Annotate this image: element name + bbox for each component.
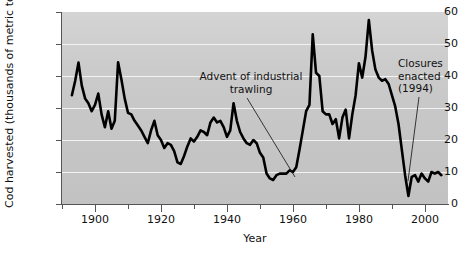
- y-tick-mark-50: [56, 44, 61, 45]
- x-axis-line: [61, 204, 449, 205]
- gridline-y-30: [62, 108, 448, 109]
- y-tick-label-10: 10: [406, 166, 458, 177]
- x-tick-label-1960: 1960: [268, 214, 318, 226]
- y-tick-label-0: 0: [406, 198, 458, 209]
- x-tick-mark-1950: [260, 205, 261, 209]
- annotation-closures-enacted: Closures enacted (1994): [398, 57, 456, 95]
- x-tick-label-1980: 1980: [334, 214, 384, 226]
- x-tick-label-1940: 1940: [202, 214, 252, 226]
- gridline-y-20: [62, 140, 448, 141]
- x-tick-mark-1940: [227, 205, 228, 212]
- x-tick-label-1900: 1900: [70, 214, 120, 226]
- y-axis-line: [61, 12, 62, 205]
- x-tick-mark-1980: [359, 205, 360, 212]
- x-tick-label-1920: 1920: [136, 214, 186, 226]
- cod-harvest-chart: Cod harvested (thousands of metric tonne…: [0, 0, 458, 254]
- plot-area: [62, 12, 448, 204]
- y-tick-label-30: 30: [406, 102, 458, 113]
- x-tick-mark-1890: [62, 205, 63, 209]
- y-tick-mark-20: [56, 140, 61, 141]
- y-axis-label: Cod harvested (thousands of metric tonne…: [2, 2, 18, 208]
- x-tick-mark-1970: [326, 205, 327, 209]
- gridline-y-50: [62, 44, 448, 45]
- y-tick-mark-30: [56, 108, 61, 109]
- x-tick-mark-1900: [95, 205, 96, 212]
- gridline-y-10: [62, 172, 448, 173]
- x-tick-mark-1920: [161, 205, 162, 212]
- y-tick-mark-0: [56, 204, 61, 205]
- y-tick-label-60: 60: [406, 6, 458, 17]
- x-tick-mark-2000: [425, 205, 426, 212]
- x-tick-label-2000: 2000: [400, 214, 450, 226]
- annotation-advent-of-industrial-trawling: Advent of industrial trawling: [193, 70, 309, 95]
- y-tick-mark-60: [56, 12, 61, 13]
- x-tick-mark-1910: [128, 205, 129, 209]
- x-tick-mark-1930: [194, 205, 195, 209]
- y-tick-label-50: 50: [406, 38, 458, 49]
- x-axis-label: Year: [62, 232, 448, 245]
- y-tick-mark-40: [56, 76, 61, 77]
- x-tick-mark-1990: [392, 205, 393, 209]
- x-tick-mark-1960: [293, 205, 294, 212]
- y-tick-label-20: 20: [406, 134, 458, 145]
- y-tick-mark-10: [56, 172, 61, 173]
